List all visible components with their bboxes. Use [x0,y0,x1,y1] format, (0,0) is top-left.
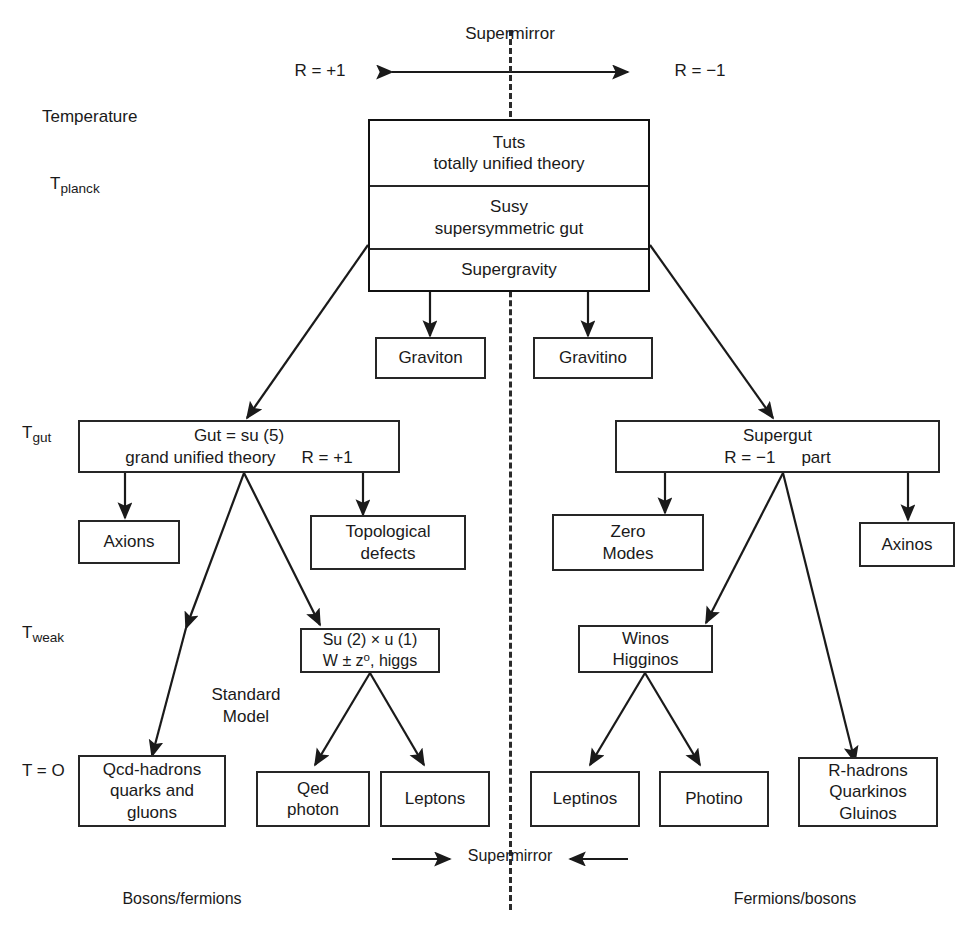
supergut-line2-row: R = −1part [724,447,830,468]
zero-modes-line2: Modes [602,543,653,564]
t-planck-base: T [50,174,60,193]
gut-line2-row: grand unified theoryR = +1 [125,447,352,468]
susy-line2: supersymmetric gut [435,218,583,239]
top-unified-theory-stack[interactable]: Tuts totally unified theory Susy supersy… [368,119,650,292]
box-topological-defects[interactable]: Topological defects [310,515,466,570]
temperature-tick-planck: Tplanck [50,174,100,196]
stack-segment-supergravity[interactable]: Supergravity [370,248,648,290]
susy-line1: Susy [490,196,528,217]
qcd-line1: Qcd-hadrons [103,759,201,780]
box-graviton[interactable]: Graviton [375,337,486,379]
gut-line2: grand unified theory [125,448,275,467]
t-planck-sub: planck [60,181,99,196]
temperature-tick-gut: Tgut [22,423,51,445]
r-hadrons-line2: Quarkinos [829,781,906,802]
r-hadrons-line3: Gluinos [839,803,897,824]
winos-line1: Winos [622,628,669,649]
box-axinos[interactable]: Axinos [859,522,955,567]
zero-modes-line1: Zero [611,521,646,542]
box-winos-higginos[interactable]: Winos Higginos [578,625,713,673]
box-gut[interactable]: Gut = su (5) grand unified theoryR = +1 [78,420,400,473]
electroweak-line2-b: , higgs [370,652,417,669]
supermirror-diagram: Supermirror R = +1 R = −1 Temperature Tp… [0,0,955,932]
supergut-parity: R = −1 [724,448,775,467]
t-gut-sub: gut [32,430,51,445]
t-gut-base: T [22,423,32,442]
topological-defects-line2: defects [361,543,416,564]
temperature-tick-zero: T = O [22,761,65,781]
supermirror-bottom-label: Supermirror [468,847,552,865]
graviton-label: Graviton [398,347,462,368]
box-photino[interactable]: Photino [659,771,769,827]
qcd-line3: gluons [127,802,177,823]
qed-line1: Qed [297,778,329,799]
supermirror-title: Supermirror [465,24,555,44]
box-qed-photon[interactable]: Qed photon [256,771,370,827]
parity-left-label: R = +1 [294,61,345,81]
t-weak-base: T [22,623,32,642]
axinos-label: Axinos [881,534,932,555]
electroweak-line1: Su (2) × u (1) [323,630,418,650]
box-electroweak[interactable]: Su (2) × u (1) W ± zo, higgs [300,628,440,673]
box-leptinos[interactable]: Leptinos [530,771,640,827]
gravitino-label: Gravitino [559,347,627,368]
qed-line2: photon [287,799,339,820]
r-hadrons-line1: R-hadrons [828,760,907,781]
stack-segment-tuts[interactable]: Tuts totally unified theory [370,121,648,185]
box-supergut[interactable]: Supergut R = −1part [615,420,940,473]
leptinos-label: Leptinos [553,788,617,809]
box-qcd-hadrons[interactable]: Qcd-hadrons quarks and gluons [78,755,226,827]
temperature-axis-label: Temperature [42,107,137,127]
stack-segment-susy[interactable]: Susy supersymmetric gut [370,185,648,248]
parity-right-label: R = −1 [674,61,725,81]
qcd-line2: quarks and [110,780,194,801]
leptons-label: Leptons [405,788,466,809]
gut-line1: Gut = su (5) [194,425,284,446]
box-gravitino[interactable]: Gravitino [533,337,653,379]
right-side-label: Fermions/bosons [734,890,857,908]
standard-model-annotation: Standard Model [212,684,281,728]
topological-defects-line1: Topological [345,521,430,542]
higginos-line2: Higginos [612,649,678,670]
box-axions[interactable]: Axions [78,520,180,564]
electroweak-line2: W ± zo, higgs [323,650,417,671]
box-leptons[interactable]: Leptons [380,771,490,827]
t-weak-sub: weak [32,630,64,645]
tuts-line2: totally unified theory [433,153,584,174]
left-side-label: Bosons/fermions [122,890,241,908]
axions-label: Axions [103,531,154,552]
photino-label: Photino [685,788,743,809]
supergut-line1: Supergut [743,425,812,446]
supergut-part: part [801,448,830,467]
tuts-line1: Tuts [493,132,525,153]
standard-model-line2: Model [212,706,281,728]
box-zero-modes[interactable]: Zero Modes [552,514,704,571]
temperature-tick-weak: Tweak [22,623,64,645]
supergravity-line1: Supergravity [461,259,556,280]
box-r-hadrons[interactable]: R-hadrons Quarkinos Gluinos [798,757,938,827]
electroweak-line2-a: W ± z [323,652,364,669]
standard-model-line1: Standard [212,684,281,706]
gut-parity: R = +1 [302,448,353,467]
